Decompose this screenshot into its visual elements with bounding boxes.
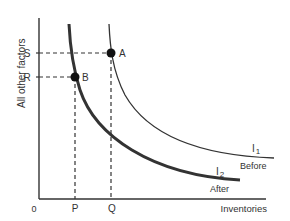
curve-i1-caption: Before xyxy=(240,161,267,171)
point-b xyxy=(71,73,80,82)
curve-i1 xyxy=(109,24,274,158)
tick-label-r: R xyxy=(23,72,30,83)
point-a xyxy=(107,49,116,58)
tick-label-s: S xyxy=(24,48,31,59)
point-label-b: B xyxy=(82,72,89,83)
tick-label-q: Q xyxy=(108,203,116,214)
curve-i2-caption: After xyxy=(210,184,229,194)
diagram-canvas: All other factors S R 0 P Q Inventories … xyxy=(0,0,290,221)
x-axis-label: Inventories xyxy=(221,203,268,214)
isoquant-diagram: All other factors S R 0 P Q Inventories … xyxy=(0,0,290,221)
curve-i1-name: I1 xyxy=(252,143,261,156)
origin-label: 0 xyxy=(31,204,36,214)
tick-label-p: P xyxy=(72,203,79,214)
point-label-a: A xyxy=(119,48,126,59)
curve-i2 xyxy=(69,24,240,180)
